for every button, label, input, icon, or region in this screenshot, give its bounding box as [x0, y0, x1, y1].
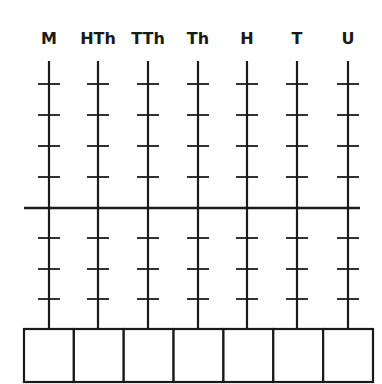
column-label: T — [292, 29, 303, 48]
answer-boxes — [24, 329, 373, 382]
rod-u: U — [337, 29, 359, 329]
answer-box-m[interactable] — [24, 329, 74, 382]
answer-box-hth[interactable] — [74, 329, 124, 382]
column-label: HTh — [80, 29, 116, 48]
column-label: M — [41, 29, 57, 48]
answer-box-h[interactable] — [223, 329, 273, 382]
rod-h: H — [236, 29, 258, 329]
abacus-diagram: MHThTThThHTU — [0, 0, 382, 384]
rod-tth: TTh — [131, 29, 165, 329]
answer-box-u[interactable] — [323, 329, 373, 382]
column-label: Th — [187, 29, 209, 48]
rod-th: Th — [187, 29, 209, 329]
answer-box-th[interactable] — [174, 329, 224, 382]
rod-m: M — [38, 29, 60, 329]
column-label: U — [342, 29, 355, 48]
answer-box-tth[interactable] — [124, 329, 174, 382]
rod-hth: HTh — [80, 29, 116, 329]
answer-box-t[interactable] — [273, 329, 323, 382]
rod-t: T — [286, 29, 308, 329]
column-label: TTh — [131, 29, 165, 48]
column-label: H — [240, 29, 253, 48]
